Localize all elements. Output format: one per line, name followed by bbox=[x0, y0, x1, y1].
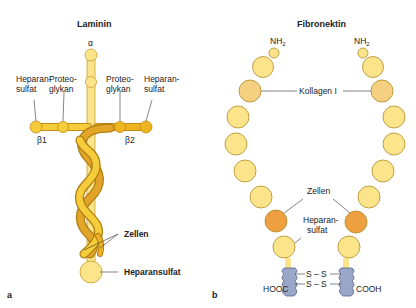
hooc-label: HOOC bbox=[263, 284, 289, 294]
cooh-label: COOH bbox=[356, 284, 382, 294]
heparansulfat-bottom-label: Heparansulfat bbox=[124, 267, 181, 277]
proteoglykan-left-label: Proteo- bbox=[49, 74, 77, 84]
heparansulfat-left-label: Heparan- bbox=[16, 74, 52, 84]
zellen-label: Zellen bbox=[307, 186, 330, 196]
disulfide-bond-bottom: S – S bbox=[306, 279, 327, 289]
nh2-left-label: NH2 bbox=[270, 36, 286, 47]
fibronektin-left-chain bbox=[225, 48, 297, 296]
zellen-label: Zellen bbox=[124, 229, 149, 239]
fibronektin-title: Fibronektin bbox=[297, 19, 346, 29]
proteoglykan-right-label: Proteo- bbox=[106, 74, 134, 84]
proteoglykan-left-label: glykan bbox=[49, 84, 74, 94]
fibronektin-diagram: Fibronektin bbox=[212, 19, 405, 300]
beta1-label: β1 bbox=[37, 135, 47, 145]
panel-a-letter: a bbox=[7, 290, 13, 300]
laminin-title: Laminin bbox=[77, 19, 112, 29]
alpha-label: α bbox=[88, 38, 93, 48]
kollagen-label: Kollagen I bbox=[299, 86, 337, 96]
disulfide-bond-top: S – S bbox=[306, 269, 327, 279]
panel-b-letter: b bbox=[212, 290, 218, 300]
beta2-label: β2 bbox=[125, 135, 135, 145]
heparansulfat-label: Heparan- bbox=[303, 215, 339, 225]
heparansulfat-right-label: Heparan- bbox=[144, 74, 180, 84]
nh2-right-label: NH2 bbox=[354, 36, 370, 47]
laminin-diagram: Laminin α bbox=[7, 19, 181, 300]
heparansulfat-left-label: sulfat bbox=[16, 84, 37, 94]
diagram-canvas: Laminin α bbox=[0, 0, 416, 308]
beta1-arm bbox=[30, 121, 88, 133]
heparansulfat-right-label: sulfat bbox=[144, 84, 165, 94]
heparansulfat-label: sulfat bbox=[307, 225, 328, 235]
proteoglykan-right-label: glykan bbox=[106, 84, 131, 94]
fibronektin-right-chain bbox=[338, 48, 405, 296]
